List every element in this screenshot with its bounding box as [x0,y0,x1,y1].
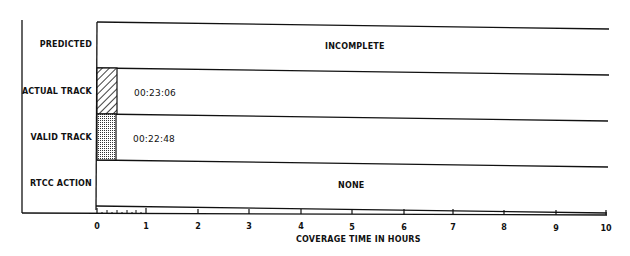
row-border [97,22,609,29]
valid-track-annotation: 00:22:48 [133,134,175,144]
actual-track-bar [97,68,117,114]
tick-label: 5 [349,223,355,232]
tick-label: 3 [246,222,252,231]
rtcc-action-annotation: NONE [338,181,364,190]
x-axis-line [22,213,607,215]
chart-graphics [0,0,630,256]
valid-track-bar [97,114,116,160]
tick-label: 7 [450,223,456,232]
row-label-valid-track: VALID TRACK [31,133,92,142]
predicted-annotation: INCOMPLETE [325,42,385,51]
row-border [97,114,608,121]
row-label-predicted: PREDICTED [40,40,92,49]
tick-label: 1 [143,222,149,231]
x-axis-title: COVERAGE TIME IN HOURS [296,235,421,244]
tick-label: 9 [553,224,559,233]
tick-label: 4 [298,222,304,231]
tick-label: 10 [600,224,611,233]
tick-label: 0 [94,222,100,231]
row-label-rtcc-action: RTCC ACTION [30,179,92,188]
row-border [97,160,608,167]
tick-label: 6 [401,223,407,232]
row-label-actual-track: ACTUAL TRACK [22,87,92,96]
tick-label: 8 [501,223,507,232]
row-border [97,68,609,75]
tick-label: 2 [195,222,201,231]
actual-track-annotation: 00:23:06 [134,88,176,98]
